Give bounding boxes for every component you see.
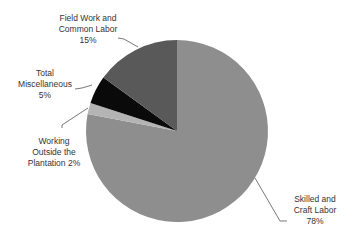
- label-line: Miscellaneous: [14, 79, 76, 90]
- label-line: Outside the: [22, 147, 86, 158]
- label-line: Field Work and: [56, 13, 120, 24]
- label-line: Total: [14, 68, 76, 79]
- label-value: 78%: [286, 216, 344, 227]
- leader-line-working: [62, 108, 88, 128]
- pie-slices: [86, 40, 268, 222]
- label-value: 5%: [14, 90, 76, 101]
- label-total-misc: Total Miscellaneous 5%: [14, 68, 76, 101]
- label-field-work: Field Work and Common Labor 15%: [56, 13, 120, 46]
- label-value: Plantation 2%: [22, 158, 86, 169]
- label-skilled-craft: Skilled and Craft Labor 78%: [286, 194, 344, 227]
- leader-line-field: [118, 38, 138, 47]
- leader-line-skilled: [255, 178, 287, 221]
- label-working-outside: Working Outside the Plantation 2%: [22, 136, 86, 169]
- label-line: Skilled and: [286, 194, 344, 205]
- label-line: Craft Labor: [286, 205, 344, 216]
- label-line: Common Labor: [56, 24, 120, 35]
- leader-line-misc: [75, 85, 92, 89]
- label-value: 15%: [56, 35, 120, 46]
- label-line: Working: [22, 136, 86, 147]
